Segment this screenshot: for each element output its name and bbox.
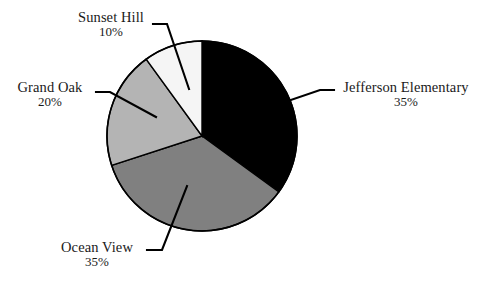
leader-line-jefferson-elementary <box>288 90 334 101</box>
pie-label-ocean-view-name: Ocean View <box>48 239 146 255</box>
pie-label-grand-oak-value: 20% <box>2 95 98 110</box>
pie-label-grand-oak-name: Grand Oak <box>2 79 98 95</box>
pie-label-jefferson-elementary: Jefferson Elementary 35% <box>333 79 479 110</box>
pie-label-sunset-hill-name: Sunset Hill <box>63 9 159 25</box>
pie-label-sunset-hill: Sunset Hill 10% <box>63 9 159 40</box>
pie-slices <box>107 41 297 231</box>
pie-label-sunset-hill-value: 10% <box>63 25 159 40</box>
pie-label-jefferson-elementary-value: 35% <box>333 95 479 110</box>
pie-label-jefferson-elementary-name: Jefferson Elementary <box>333 79 479 95</box>
pie-label-ocean-view-value: 35% <box>48 255 146 270</box>
pie-chart-figure: Sunset Hill 10% Grand Oak 20% Jefferson … <box>0 0 480 286</box>
pie-label-grand-oak: Grand Oak 20% <box>2 79 98 110</box>
pie-label-ocean-view: Ocean View 35% <box>48 239 146 270</box>
